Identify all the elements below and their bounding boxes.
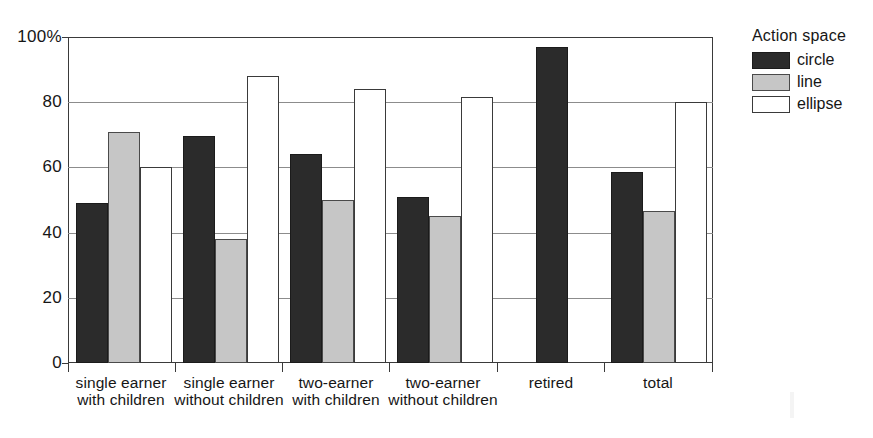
x-tick-mark <box>604 363 605 372</box>
scan-artifact <box>790 392 794 418</box>
bar-circle <box>397 197 429 363</box>
legend-item-ellipse[interactable]: ellipse <box>752 95 870 113</box>
bar-line <box>643 211 675 363</box>
x-axis-label-group: two-earner with children <box>292 374 379 408</box>
bar-ellipse <box>140 167 172 363</box>
x-label-line1: single earner <box>76 374 167 391</box>
y-axis: 100% 80 60 40 20 0 <box>0 37 62 363</box>
x-tick-mark <box>282 363 283 372</box>
y-tick-label: 0 <box>52 353 62 373</box>
y-tick-label: 80 <box>42 92 62 112</box>
bar-line <box>108 132 140 364</box>
x-label-line2: with children <box>76 391 167 408</box>
bar-circle <box>183 136 215 363</box>
x-label-line1: single earner <box>174 374 283 391</box>
y-tick-label: 40 <box>42 223 62 243</box>
legend-swatch-line-icon <box>752 74 790 91</box>
x-axis-label-group: retired <box>529 374 574 391</box>
x-tick-mark <box>389 363 390 372</box>
bar-line <box>429 216 461 363</box>
legend-swatch-ellipse-icon <box>752 96 790 113</box>
x-label-line1: total <box>643 374 673 391</box>
bar-chart-figure: 100% 80 60 40 20 0 <box>0 0 873 438</box>
x-tick-mark <box>68 363 69 372</box>
bar-ellipse <box>354 89 386 363</box>
legend-label: line <box>797 73 822 91</box>
x-axis-label-group: two-earner without children <box>388 374 497 408</box>
bar-circle <box>536 47 568 363</box>
legend-label: ellipse <box>797 95 842 113</box>
y-tick-label: 20 <box>42 288 62 308</box>
legend-label: circle <box>797 51 834 69</box>
x-tick-mark <box>712 363 713 372</box>
legend-item-line[interactable]: line <box>752 73 870 91</box>
bar-line <box>215 239 247 363</box>
plot-area <box>68 37 713 363</box>
bar-circle <box>290 154 322 363</box>
x-label-line1: two-earner <box>388 374 497 391</box>
y-tick-label: 60 <box>42 157 62 177</box>
legend-swatch-circle-icon <box>752 52 790 69</box>
x-tick-mark <box>175 363 176 372</box>
x-axis-label-group: total <box>643 374 673 391</box>
bar-ellipse <box>247 76 279 363</box>
bar-circle <box>76 203 108 363</box>
x-axis-label-group: single earner with children <box>76 374 167 408</box>
y-tick-label: 100% <box>17 27 62 47</box>
x-label-line2: without children <box>174 391 283 408</box>
bar-ellipse <box>675 102 707 363</box>
bar-ellipse <box>461 97 493 363</box>
bar-circle <box>611 172 643 363</box>
legend: Action space circle line ellipse <box>752 27 870 117</box>
bar-line <box>322 200 354 363</box>
bars-layer <box>68 37 713 363</box>
x-label-line2: without children <box>388 391 497 408</box>
x-label-line2: with children <box>292 391 379 408</box>
x-axis-label-group: single earner without children <box>174 374 283 408</box>
legend-title: Action space <box>752 27 870 45</box>
x-label-line1: two-earner <box>292 374 379 391</box>
legend-item-circle[interactable]: circle <box>752 51 870 69</box>
x-label-line1: retired <box>529 374 574 391</box>
x-tick-mark <box>497 363 498 372</box>
